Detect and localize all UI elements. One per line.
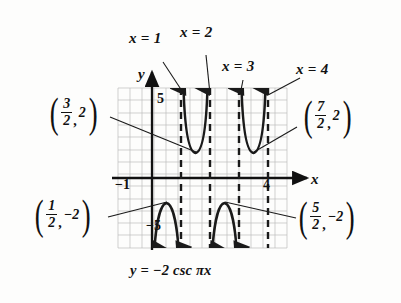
figure-caption: y = −2 csc πx	[130, 263, 212, 278]
asymptote-label-x-3: x = 3	[222, 59, 255, 74]
right-paren: )	[89, 95, 98, 130]
point-y-value: 2	[79, 106, 86, 120]
point-y-value: 2	[333, 109, 340, 123]
left-paren: (	[304, 98, 313, 133]
point-y-value: −2	[328, 210, 343, 224]
branch-down-2-3	[213, 203, 237, 248]
right-paren: )	[82, 197, 91, 232]
fraction-numerator: 3	[62, 97, 71, 111]
asymptotes	[181, 88, 268, 248]
x-axis-label: x	[311, 172, 319, 187]
y-axis-label: y	[138, 67, 145, 82]
leader-x-4	[268, 78, 300, 95]
plot-canvas	[0, 0, 401, 303]
fraction-denominator: 2	[311, 218, 320, 232]
fraction-numerator: 1	[47, 199, 56, 213]
fraction-7-2: 7 2	[315, 100, 326, 132]
tick-label-x-minus-1: −1	[115, 178, 130, 192]
comma: ,	[322, 218, 326, 234]
branch-up-3-4	[242, 88, 266, 153]
point-label-5-2-minus-2: ( 5 2 , −2 )	[296, 199, 358, 234]
branch-up-1-2	[184, 88, 208, 153]
fraction-numerator: 7	[316, 100, 325, 114]
right-paren: )	[343, 98, 352, 133]
leader-point-5-2	[225, 202, 296, 218]
asymptote-label-x-2: x = 2	[180, 25, 213, 40]
left-paren: (	[50, 95, 59, 130]
left-paren: (	[35, 197, 44, 232]
comma: ,	[58, 216, 62, 232]
point-label-7-2-2: ( 7 2 , 2 )	[301, 98, 354, 133]
left-paren: (	[299, 199, 308, 234]
asymptote-label-x-1: x = 1	[129, 31, 162, 46]
fraction-denominator: 2	[316, 117, 325, 131]
csc-graph-figure: x = 1 x = 2 x = 3 x = 4 y x 5 −5 −1 4 ( …	[0, 0, 401, 303]
tick-label-y-5: 5	[157, 92, 164, 106]
fraction-5-2: 5 2	[310, 201, 321, 233]
grid-lines	[118, 88, 287, 248]
point-y-value: −2	[64, 208, 79, 222]
asymptote-label-x-4: x = 4	[296, 62, 329, 77]
fraction-denominator: 2	[47, 216, 56, 230]
tick-label-x-4: 4	[263, 178, 270, 192]
point-label-3-2-2: ( 3 2 , 2 )	[47, 95, 100, 130]
tick-label-y-minus-5: −5	[146, 219, 161, 233]
fraction-3-2: 3 2	[61, 97, 72, 129]
fraction-1-2: 1 2	[46, 199, 57, 231]
fraction-numerator: 5	[311, 201, 320, 215]
fraction-denominator: 2	[62, 114, 71, 128]
right-paren: )	[346, 199, 355, 234]
point-label-1-2-minus-2: ( 1 2 , −2 )	[32, 197, 94, 232]
comma: ,	[327, 117, 331, 133]
comma: ,	[73, 114, 77, 130]
